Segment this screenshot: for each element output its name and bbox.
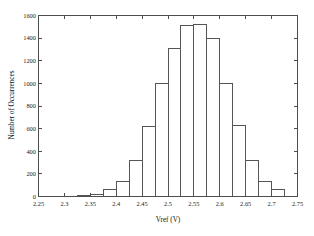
y-tick-label: 400 [26, 148, 36, 155]
y-axis-title: Number of Occurrences [8, 70, 16, 139]
x-tick-label: 2.55 [188, 200, 199, 207]
x-tick-label: 2.3 [60, 200, 68, 207]
x-tick-label: 2.65 [240, 200, 251, 207]
x-tick-label: 2.35 [85, 200, 96, 207]
y-tick-label: 1400 [23, 34, 36, 41]
y-tick-label: 1200 [23, 57, 36, 64]
y-tick-label: 1600 [23, 12, 36, 19]
x-tick-label: 2.25 [33, 200, 44, 207]
x-tick-label: 2.45 [137, 200, 148, 207]
x-tick-label: 2.6 [216, 200, 224, 207]
histogram-chart: 2.252.32.352.42.452.52.552.62.652.72.75 … [0, 0, 314, 236]
y-tick-label: 0 [33, 193, 36, 200]
y-tick-label: 800 [26, 102, 36, 109]
histogram-bars [77, 25, 284, 197]
y-tick-label: 1000 [23, 80, 36, 87]
x-tick-label: 2.4 [112, 200, 121, 207]
x-tick-label: 2.5 [164, 200, 172, 207]
y-tick-label: 600 [26, 125, 36, 132]
histogram-figure: 2.252.32.352.42.452.52.552.62.652.72.75 … [0, 0, 314, 236]
y-tick-label: 200 [26, 170, 36, 177]
x-tick-label: 2.75 [292, 200, 303, 207]
x-tick-label: 2.7 [268, 200, 277, 207]
y-axis-ticks: 02004006008001000120014001600 [23, 12, 297, 200]
x-axis-title: Vref (V) [156, 216, 181, 224]
